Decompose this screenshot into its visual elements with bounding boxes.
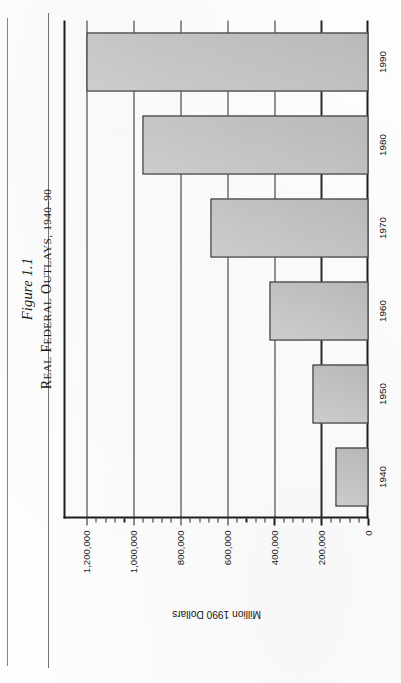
bar-1940: [335, 448, 368, 506]
axis-tick-minor: [161, 519, 162, 523]
category-label-1990: 1990: [377, 21, 388, 104]
gridline: [227, 21, 228, 519]
axis-tick-minor: [218, 519, 219, 523]
axis-tick-minor: [115, 519, 116, 523]
value-axis-title: Million 1990 Dollars: [126, 609, 306, 620]
plot-frame-left: [64, 517, 369, 519]
gridline: [86, 21, 87, 519]
gridline: [180, 21, 181, 519]
bar-1950: [313, 365, 369, 423]
axis-tick-minor: [124, 519, 125, 523]
axis-tick-label: 0: [363, 531, 374, 536]
bar-1990: [87, 33, 369, 91]
axis-tick-label: 200,000: [316, 531, 327, 566]
axis-tick-minor: [293, 519, 294, 523]
axis-tick-minor: [190, 519, 191, 523]
axis-tick-minor: [105, 519, 106, 523]
category-label-1940: 1940: [377, 436, 388, 519]
axis-tick-minor: [143, 519, 144, 523]
axis-tick-major: [133, 519, 134, 526]
axis-tick-minor: [359, 519, 360, 523]
gridline: [133, 21, 134, 519]
bar-1970: [211, 199, 369, 257]
axis-tick-major: [274, 519, 275, 526]
bar-1980: [143, 116, 369, 174]
axis-tick-label: 400,000: [269, 531, 280, 566]
axis-tick-minor: [96, 519, 97, 523]
axis-tick-major: [180, 519, 181, 526]
axis-tick-major: [368, 519, 369, 526]
axis-tick-label: 1,200,000: [81, 531, 92, 574]
axis-tick-minor: [340, 519, 341, 523]
axis-tick-label: 1,000,000: [128, 531, 139, 574]
figure-number: Figure 1.1: [18, 144, 37, 434]
bar-1960: [270, 282, 369, 340]
axis-tick-minor: [171, 519, 172, 523]
axis-tick-minor: [237, 519, 238, 523]
axis-tick-label: 600,000: [222, 531, 233, 566]
plot-area: 0200,000400,000600,000800,0001,000,0001,…: [64, 21, 369, 519]
bar-chart: 0200,000400,000600,000800,0001,000,0001,…: [64, 21, 369, 519]
value-axis-baseline: [367, 21, 369, 519]
axis-tick-minor: [152, 519, 153, 523]
gridline: [274, 21, 275, 519]
category-label-1970: 1970: [377, 187, 388, 270]
category-label-1960: 1960: [377, 270, 388, 353]
axis-tick-minor: [246, 519, 247, 523]
category-label-1980: 1980: [377, 104, 388, 187]
axis-tick-minor: [208, 519, 209, 523]
plot-frame-top: [64, 21, 66, 519]
axis-tick-major: [227, 519, 228, 526]
figure-caption: Figure 1.1 REAL FEDERAL OUTLAYS, 1940–90: [18, 144, 64, 434]
axis-tick-minor: [255, 519, 256, 523]
scanned-page: Figure 1.1 REAL FEDERAL OUTLAYS, 1940–90…: [0, 0, 401, 683]
axis-tick-minor: [349, 519, 350, 523]
axis-tick-major: [86, 519, 87, 526]
axis-tick-label: 800,000: [175, 531, 186, 566]
category-label-1950: 1950: [377, 353, 388, 436]
figure-title: REAL FEDERAL OUTLAYS, 1940–90: [37, 144, 57, 434]
axis-tick-minor: [265, 519, 266, 523]
gridline: [321, 21, 322, 519]
axis-tick-major: [321, 519, 322, 526]
axis-tick-minor: [312, 519, 313, 523]
axis-tick-minor: [199, 519, 200, 523]
axis-tick-minor: [283, 519, 284, 523]
axis-tick-minor: [302, 519, 303, 523]
page-edge-rule-outer: [7, 18, 8, 666]
axis-tick-minor: [330, 519, 331, 523]
